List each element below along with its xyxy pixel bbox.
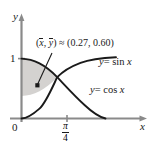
annot-xbar: x bbox=[39, 38, 43, 48]
centroid-annotation: (x, y) ≈ (0.27, 0.60) bbox=[36, 38, 114, 48]
pi-numerator: π bbox=[62, 122, 69, 132]
sin-label-eq: = sin bbox=[104, 56, 125, 67]
x-tick-label-pi-over-4: π 4 bbox=[62, 122, 69, 143]
four-denominator: 4 bbox=[62, 134, 69, 143]
curve-label-sin: y= sin x bbox=[99, 57, 132, 68]
origin-label: 0 bbox=[12, 122, 18, 133]
plot-canvas bbox=[0, 0, 154, 143]
y-axis-label: y bbox=[13, 11, 18, 22]
figure-container: y x 0 1 π 4 y= sin x y= cos x (x, y) ≈ (… bbox=[0, 0, 154, 143]
curve-label-cos: y= cos x bbox=[90, 85, 125, 96]
y-axis-arrowhead bbox=[19, 14, 25, 22]
cos-label-eq: = cos bbox=[95, 84, 118, 95]
sin-label-var: x bbox=[127, 56, 132, 67]
annot-ybar: y bbox=[49, 38, 53, 48]
annot-value: (0.27, 0.60) bbox=[67, 37, 114, 48]
x-axis-label: x bbox=[140, 121, 145, 132]
cos-label-var: x bbox=[120, 84, 125, 95]
centroid-marker bbox=[35, 83, 39, 87]
annot-approx-sign: ≈ bbox=[59, 37, 65, 48]
y-tick-label-1: 1 bbox=[10, 53, 16, 64]
annot-close-paren: ) bbox=[53, 37, 56, 48]
